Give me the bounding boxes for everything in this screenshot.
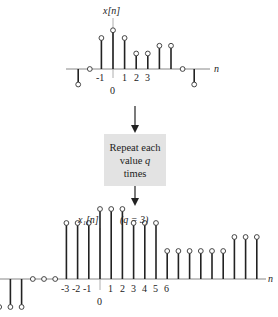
stem-marker <box>145 51 150 56</box>
stem-marker <box>19 305 24 310</box>
bottom-tick-1: 1 <box>108 283 113 294</box>
stem-marker <box>8 305 13 310</box>
top-tick-2: 2 <box>134 72 139 83</box>
bottom-tick-3: 3 <box>131 283 136 294</box>
stem-marker <box>120 207 125 212</box>
stem-marker <box>64 221 69 226</box>
stem-marker <box>210 249 215 254</box>
bottom-tick-4: 4 <box>142 283 147 294</box>
bottom-plot-param: (q = 3) <box>120 214 149 226</box>
stem-marker <box>254 235 259 240</box>
process-box-line2: value q <box>120 154 151 167</box>
bottom-tick-0: 0 <box>97 296 102 307</box>
stem-marker <box>99 36 104 41</box>
stem-marker <box>176 249 181 254</box>
stem-marker <box>76 82 81 87</box>
arrow-head-1-icon <box>131 125 139 133</box>
top-tick-0: 0 <box>110 85 115 96</box>
top-stem-plot: x[n] n -1 0 1 2 3 <box>66 5 219 96</box>
stem-marker <box>122 36 127 41</box>
stem-marker <box>134 51 139 56</box>
stem-marker <box>165 249 170 254</box>
stem-marker <box>232 235 237 240</box>
stem-marker <box>243 235 248 240</box>
stem-marker <box>157 43 162 48</box>
process-box-line1: Repeat each <box>109 141 160 154</box>
stem-marker <box>111 28 116 33</box>
stem-marker <box>109 207 114 212</box>
bottom-tick-5: 5 <box>153 283 158 294</box>
repeat-process-box: Repeat each value q times <box>104 134 166 186</box>
top-axis-label: n <box>214 63 219 74</box>
stem-marker <box>0 305 2 310</box>
bottom-tick-2: 2 <box>120 283 125 294</box>
stem-marker <box>53 277 58 282</box>
bottom-stem-plot: x₁[n] (q = 3) n -3 -2 -1 0 1 2 3 4 5 6 <box>0 207 273 310</box>
bottom-axis-label: n <box>268 273 273 284</box>
bottom-tick-6: 6 <box>164 283 169 294</box>
top-tick-neg1: -1 <box>96 72 104 83</box>
arrow-head-2-icon <box>131 198 139 206</box>
bottom-tick-neg2: -2 <box>72 283 80 294</box>
stem-marker <box>187 249 192 254</box>
stem-marker <box>98 207 103 212</box>
stem-marker <box>30 277 35 282</box>
stem-marker <box>87 67 92 72</box>
bottom-tick-neg1: -1 <box>83 283 91 294</box>
top-tick-3: 3 <box>145 72 150 83</box>
stem-marker <box>221 249 226 254</box>
top-tick-1: 1 <box>122 72 127 83</box>
stem-marker <box>42 277 47 282</box>
bottom-tick-neg3: -3 <box>61 283 69 294</box>
bottom-plot-title: x₁[n] <box>77 214 99 225</box>
stem-marker <box>154 221 159 226</box>
top-plot-title: x[n] <box>102 5 120 16</box>
stem-marker <box>169 43 174 48</box>
process-box-line3: times <box>124 167 147 180</box>
stem-marker <box>198 249 203 254</box>
stem-marker <box>180 67 185 72</box>
stem-marker <box>192 82 197 87</box>
